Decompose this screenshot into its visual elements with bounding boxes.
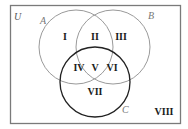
region-iv-label: IV xyxy=(73,62,85,73)
region-vii-label: VII xyxy=(87,86,102,97)
venn-diagram: U A B C I II III IV V VI VII VIII xyxy=(0,0,188,129)
universe-label: U xyxy=(14,11,22,22)
region-viii-label: VIII xyxy=(155,106,174,117)
region-vi-label: VI xyxy=(106,62,117,73)
set-c-circle xyxy=(60,47,130,117)
region-ii-label: II xyxy=(91,31,99,42)
region-iii-label: III xyxy=(115,31,127,42)
set-b-label: B xyxy=(148,10,154,21)
region-v-label: V xyxy=(91,62,99,73)
set-c-label: C xyxy=(122,104,129,115)
set-a-label: A xyxy=(39,15,47,26)
region-i-label: I xyxy=(63,31,67,42)
